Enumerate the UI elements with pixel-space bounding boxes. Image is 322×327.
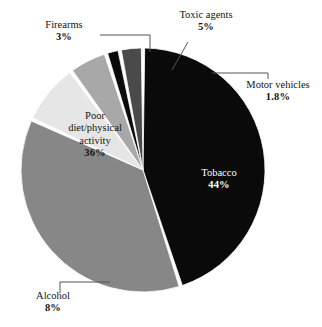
pie-label-tobacco-name: Tobacco: [186, 167, 252, 179]
pie-label-motor-vehicles: Motor vehicles 1.8%: [236, 79, 320, 103]
pie-label-motor-vehicles-name: Motor vehicles: [236, 79, 320, 91]
pie-label-firearms-value: 3%: [28, 31, 100, 43]
pie-label-toxic-agents-name: Toxic agents: [167, 9, 245, 21]
pie-label-poor-diet-name: Poor diet/physical activity: [53, 110, 137, 147]
pie-chart-figure: Firearms 3% Toxic agents 5% Motor vehicl…: [0, 0, 322, 327]
pie-label-alcohol-name: Alcohol: [22, 290, 84, 302]
pie-label-alcohol: Alcohol 8%: [22, 290, 84, 314]
pie-label-firearms-name: Firearms: [28, 19, 100, 31]
pie-label-firearms: Firearms 3%: [28, 19, 100, 43]
pie-label-poor-diet-value: 36%: [53, 147, 137, 159]
pie-label-alcohol-value: 8%: [22, 302, 84, 314]
pie-label-motor-vehicles-value: 1.8%: [236, 91, 320, 103]
pie-chart-canvas: [0, 0, 322, 327]
pie-label-poor-diet: Poor diet/physical activity 36%: [53, 110, 137, 160]
pie-label-toxic-agents: Toxic agents 5%: [167, 9, 245, 33]
pie-label-tobacco-value: 44%: [186, 179, 252, 191]
pie-label-tobacco: Tobacco 44%: [186, 167, 252, 192]
pie-label-toxic-agents-value: 5%: [167, 21, 245, 33]
